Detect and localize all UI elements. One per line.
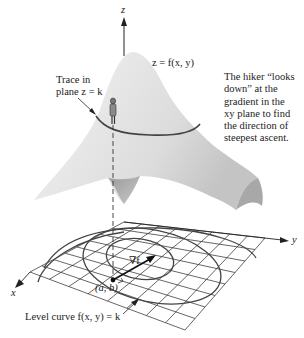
level-curves xyxy=(38,216,256,316)
diagram-canvas xyxy=(0,0,304,338)
x-axis xyxy=(15,272,30,288)
y-axis-label: y xyxy=(292,234,297,246)
hiker-note: The hiker “looks down” at the gradient i… xyxy=(224,71,304,145)
hiker-note-line: steepest ascent. xyxy=(224,132,304,144)
hiker-note-line: the direction of xyxy=(224,120,304,132)
trace-label-line1: Trace in xyxy=(56,74,90,86)
trace-pointer-arrow xyxy=(78,98,96,115)
gradient-label: ∇f xyxy=(129,255,140,267)
hiker-note-line: The hiker “looks xyxy=(224,71,304,83)
trace-label-line2: plane z = k xyxy=(56,86,102,98)
hiker-note-line: xy plane to find xyxy=(224,108,304,120)
gradient-diagram: z y x z = f(x, y) Trace in plane z = k ∇… xyxy=(0,0,304,338)
surface-label: z = f(x, y) xyxy=(152,57,194,69)
hiker-note-line: gradient in the xyxy=(224,96,304,108)
hiker-note-line: down” at the xyxy=(224,83,304,95)
x-axis-label: x xyxy=(11,287,16,299)
z-axis-label: z xyxy=(121,4,125,16)
point-label: (a, b) xyxy=(95,282,118,294)
level-curve-label: Level curve f(x, y) = k xyxy=(25,311,120,323)
z-axis xyxy=(121,17,127,56)
